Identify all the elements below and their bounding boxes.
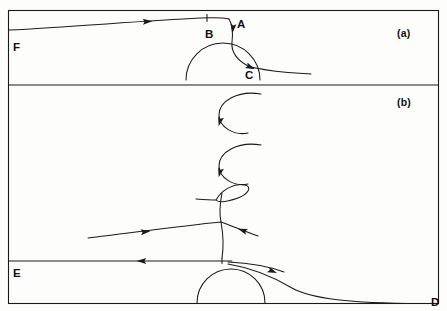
panel-b-middle-arc [219,144,261,184]
panel-b-long-incoming-line [88,222,221,238]
panel-b-cusp-lower-to-D [228,264,420,304]
panel-label-b: (b) [397,97,411,108]
panel-b-cusp-upper [228,262,284,272]
streamline-curves [9,15,420,304]
panel-b-lower-bubble [197,269,265,303]
point-label-f: F [13,42,20,54]
point-label-d: D [431,297,440,309]
point-label-b: B [205,29,214,41]
panel-b-upper-arc [219,93,261,133]
diagram-svg [0,0,447,311]
panel-frames [9,11,439,304]
panel-a-incoming-streamline-F-to-B [9,18,229,30]
point-label-a: A [237,19,246,31]
panel-b-right-branch-arrowhead [237,226,248,235]
panel-a-descending-stem-A-to-C-arrowhead [229,24,236,34]
point-label-e: E [13,268,21,280]
flow-arrowheads [137,18,279,275]
panel-b-loop-stem [220,193,223,258]
figure-frame [9,11,439,304]
point-label-c: C [245,70,254,82]
panel-label-a: (a) [397,28,410,39]
panel-b-loop-inflow [196,199,216,200]
figure-canvas: ABCDEF(a)(b) [0,0,447,311]
